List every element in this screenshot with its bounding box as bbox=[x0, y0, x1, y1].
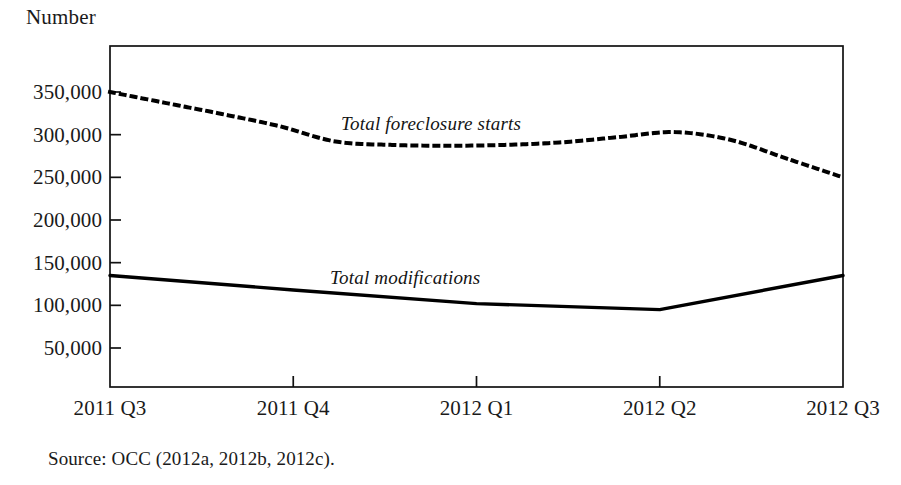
x-axis-tick-label: 2012 Q2 bbox=[623, 396, 697, 421]
source-note: Source: OCC (2012a, 2012b, 2012c). bbox=[48, 448, 335, 470]
y-axis-tick-label: 300,000 bbox=[14, 122, 102, 147]
x-axis-tick-label: 2012 Q3 bbox=[806, 396, 880, 421]
series-annotation-modifications: Total modifications bbox=[330, 267, 480, 289]
y-axis-tick-label: 350,000 bbox=[14, 80, 102, 105]
y-axis-tick-label: 150,000 bbox=[14, 250, 102, 275]
chart-figure: Number 350,000300,000250,000200,000150,0… bbox=[0, 0, 901, 485]
x-axis-tick-label: 2011 Q3 bbox=[74, 396, 147, 421]
y-axis-tick-label: 200,000 bbox=[14, 208, 102, 233]
tick-marks bbox=[110, 92, 660, 387]
y-axis-tick-label: 50,000 bbox=[14, 336, 102, 361]
x-axis-tick-label: 2011 Q4 bbox=[257, 396, 330, 421]
y-axis-tick-label: 100,000 bbox=[14, 293, 102, 318]
x-axis-tick-label: 2012 Q1 bbox=[440, 396, 514, 421]
y-axis-tick-label: 250,000 bbox=[14, 165, 102, 190]
series-annotation-foreclosure-starts: Total foreclosure starts bbox=[341, 113, 521, 135]
plot-frame-border bbox=[110, 46, 843, 387]
